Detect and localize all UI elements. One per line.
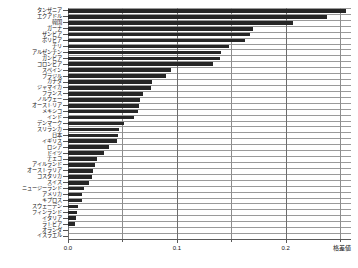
bar[interactable]: [68, 68, 171, 72]
bar[interactable]: [68, 110, 138, 114]
bar-row[interactable]: [68, 80, 351, 84]
bar-row[interactable]: [68, 139, 351, 143]
bar-row[interactable]: [68, 57, 351, 61]
bar[interactable]: [68, 45, 229, 49]
x-axis-minor-tick-mark: [340, 239, 341, 242]
x-axis-title: 格差値: [333, 245, 351, 251]
bar[interactable]: [68, 199, 82, 203]
bar-row[interactable]: [68, 211, 351, 215]
bar[interactable]: [68, 80, 152, 84]
bar-row[interactable]: [68, 74, 351, 78]
x-axis: 格差値 0.00.10.2: [68, 239, 351, 268]
bar-row[interactable]: [68, 45, 351, 49]
bar-row[interactable]: [68, 21, 351, 25]
bar[interactable]: [68, 181, 89, 185]
bar[interactable]: [68, 139, 117, 143]
bar-row[interactable]: [68, 134, 351, 138]
x-axis-minor-tick-mark: [122, 239, 123, 242]
bar-row[interactable]: [68, 228, 351, 232]
bar-row[interactable]: [68, 104, 351, 108]
bar-row[interactable]: [68, 15, 351, 19]
bar[interactable]: [68, 27, 253, 31]
bar-row[interactable]: [68, 163, 351, 167]
bar-row[interactable]: [68, 145, 351, 149]
bar[interactable]: [68, 9, 346, 13]
bar-row[interactable]: [68, 116, 351, 120]
bar[interactable]: [68, 193, 82, 197]
bar[interactable]: [68, 211, 77, 215]
bar-row[interactable]: [68, 222, 351, 226]
y-axis-tick-label: ラトビア: [42, 222, 63, 227]
bar[interactable]: [68, 92, 143, 96]
bar-row[interactable]: [68, 27, 351, 31]
bar[interactable]: [68, 145, 109, 149]
bar[interactable]: [68, 51, 221, 55]
bar-row[interactable]: [68, 199, 351, 203]
bar[interactable]: [68, 205, 78, 209]
bar[interactable]: [68, 62, 213, 66]
x-axis-minor-tick-mark: [231, 239, 232, 242]
bar[interactable]: [68, 33, 250, 37]
bar[interactable]: [68, 39, 245, 43]
x-axis-tick-mark: [68, 239, 69, 243]
bar-row[interactable]: [68, 122, 351, 126]
y-axis-tick-label: イスラエル: [37, 233, 63, 238]
bar-row[interactable]: [68, 92, 351, 96]
bar-row[interactable]: [68, 98, 351, 102]
bar-row[interactable]: [68, 181, 351, 185]
bar-row[interactable]: [68, 151, 351, 155]
bar[interactable]: [68, 86, 151, 90]
bar-row[interactable]: [68, 110, 351, 114]
bar-row[interactable]: [68, 187, 351, 191]
bar[interactable]: [68, 57, 220, 61]
bar[interactable]: [68, 128, 119, 132]
bar[interactable]: [68, 122, 124, 126]
bar[interactable]: [68, 169, 93, 173]
bar-row[interactable]: [68, 175, 351, 179]
bar[interactable]: [68, 163, 95, 167]
bar-row[interactable]: [68, 9, 351, 13]
y-axis-tick-label: スペイン: [42, 68, 63, 73]
bar[interactable]: [68, 157, 97, 161]
bar-row[interactable]: [68, 205, 351, 209]
bar-row[interactable]: [68, 128, 351, 132]
bar-row[interactable]: [68, 193, 351, 197]
bar[interactable]: [68, 222, 75, 226]
x-axis-tick-label: 0.2: [282, 245, 290, 251]
bar[interactable]: [68, 151, 104, 155]
bar-row[interactable]: [68, 86, 351, 90]
bar[interactable]: [68, 216, 76, 220]
bar-row[interactable]: [68, 51, 351, 55]
x-axis-tick-label: 0.0: [64, 245, 72, 251]
bar-row[interactable]: [68, 234, 351, 238]
bar[interactable]: [68, 175, 92, 179]
x-axis-tick-mark: [177, 239, 178, 243]
y-axis-tick: イスラエル: [0, 233, 68, 239]
y-axis-tick-label: ロシア: [47, 145, 63, 150]
bar-row[interactable]: [68, 157, 351, 161]
bar[interactable]: [68, 98, 140, 102]
bar[interactable]: [68, 74, 166, 78]
bar[interactable]: [68, 15, 327, 19]
y-axis-labels: タンザニアエクアドル韓国ガーナザンビアボリビアチリアルゼンチンガンビアコロンビア…: [0, 8, 68, 239]
bar-row[interactable]: [68, 216, 351, 220]
bar-chart: タンザニアエクアドル韓国ガーナザンビアボリビアチリアルゼンチンガンビアコロンビア…: [0, 0, 358, 268]
bar[interactable]: [68, 21, 293, 25]
x-axis-line: [68, 239, 351, 240]
bar-row[interactable]: [68, 62, 351, 66]
bar-row[interactable]: [68, 39, 351, 43]
bars-layer: [68, 8, 351, 239]
bar[interactable]: [68, 104, 139, 108]
bar-row[interactable]: [68, 33, 351, 37]
bar-row[interactable]: [68, 68, 351, 72]
bar-row[interactable]: [68, 169, 351, 173]
bar[interactable]: [68, 116, 134, 120]
x-axis-tick-label: 0.1: [173, 245, 181, 251]
bar[interactable]: [68, 134, 118, 138]
x-axis-tick-mark: [286, 239, 287, 243]
bar[interactable]: [68, 187, 84, 191]
plot-area: [68, 8, 351, 239]
